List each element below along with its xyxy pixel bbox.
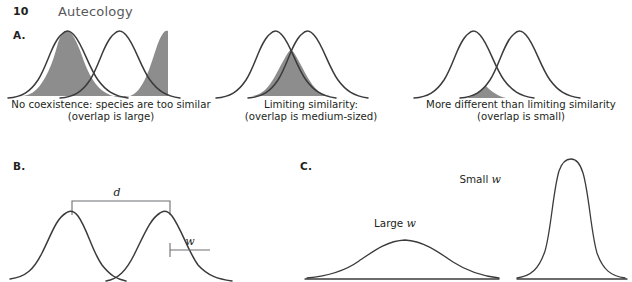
- caption-small-line1: More different than limiting similarity: [426, 99, 616, 110]
- caption-small-line2: (overlap is small): [414, 111, 628, 123]
- curve-large-w: [307, 240, 499, 278]
- panel-b-svg: d w: [0, 155, 300, 282]
- curve-pair-large-overlap: [8, 31, 180, 98]
- curve-pair-medium-overlap: [216, 31, 368, 98]
- caption-large-line2: (overlap is large): [8, 111, 214, 123]
- curve-pair-small-overlap: [414, 31, 580, 98]
- overlap-region-medium: [252, 49, 330, 96]
- curve-species-2-small: [460, 31, 580, 98]
- curve-species-1-small: [414, 31, 534, 98]
- caption-medium-line2: (overlap is medium-sized): [216, 111, 406, 123]
- distance-measure-d: d: [72, 186, 170, 215]
- curve-b-species-1: [10, 211, 126, 281]
- small-w-prefix: Small: [459, 173, 488, 185]
- curve-small-w: [517, 159, 625, 278]
- chapter-title: Autecology: [58, 4, 133, 19]
- small-w-label: Small w: [459, 173, 501, 186]
- curve-b-species-2: [106, 211, 232, 281]
- small-w-symbol: w: [492, 173, 502, 186]
- w-label: w: [185, 235, 195, 248]
- overlap-region-large: [20, 31, 168, 98]
- page-number: 10: [13, 5, 29, 18]
- caption-large-overlap: No coexistence: species are too similar …: [8, 99, 214, 124]
- d-bracket: [72, 201, 170, 215]
- large-w-symbol: w: [407, 217, 417, 230]
- width-measure-w: w: [170, 235, 210, 257]
- caption-medium-line1: Limiting similarity:: [264, 99, 358, 110]
- curve-large-w-group: Large w: [305, 217, 499, 279]
- curve-small-w-group: Small w: [459, 159, 627, 279]
- panel-a-svg: [0, 22, 632, 102]
- panel-c-svg: Large w Small w: [295, 155, 632, 282]
- panel-a-graphic: [0, 22, 632, 102]
- caption-small-overlap: More different than limiting similarity …: [414, 99, 628, 124]
- figure-page: 10 Autecology A. B. C.: [0, 0, 632, 282]
- panel-b-graphic: d w: [0, 155, 300, 282]
- caption-medium-overlap: Limiting similarity: (overlap is medium-…: [216, 99, 406, 124]
- large-w-prefix: Large: [374, 217, 403, 229]
- caption-large-line1: No coexistence: species are too similar: [11, 99, 210, 110]
- panel-c-graphic: Large w Small w: [295, 155, 632, 282]
- large-w-label: Large w: [374, 217, 417, 230]
- d-label: d: [113, 186, 120, 199]
